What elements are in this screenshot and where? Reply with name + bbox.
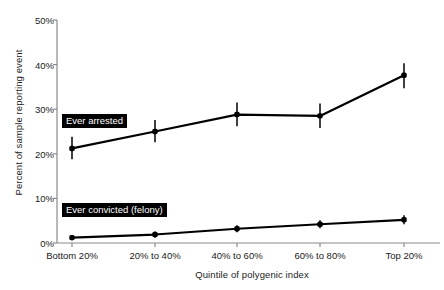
series-ever-convicted bbox=[69, 215, 406, 240]
x-axis-ticks bbox=[72, 243, 404, 247]
annotation-ever-convicted: Ever convicted (felony) bbox=[62, 203, 167, 217]
plot-area bbox=[0, 0, 444, 290]
series-ever-arrested bbox=[69, 63, 406, 159]
annotation-ever-arrested: Ever arrested bbox=[62, 114, 127, 128]
chart-figure: Percent of sample reporting event 50% 40… bbox=[0, 0, 444, 290]
